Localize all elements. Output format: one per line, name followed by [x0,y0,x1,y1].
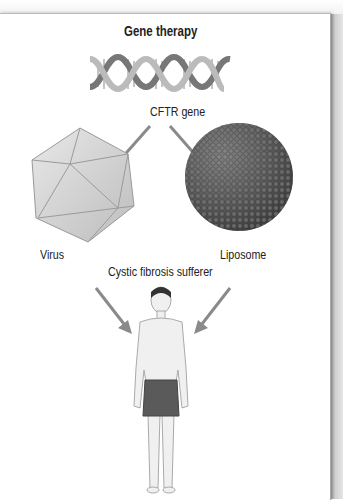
liposome-label: Liposome [220,247,266,262]
virus-label: Virus [40,247,64,262]
gene-label: CFTR gene [150,104,205,119]
liposome-sphere-icon [183,121,295,233]
patient-label: Cystic fibrosis sufferer [108,264,213,279]
page-background-top [0,0,343,14]
virus-capsid-icon [28,126,140,244]
diagram-title: Gene therapy [124,23,197,39]
page-edge-shadow [330,14,343,499]
dna-helix-icon [88,51,233,97]
arrow-from-liposome-icon [190,286,235,336]
diagram-panel: Gene therapy CFTR gene [0,13,331,500]
patient-figure-icon [128,278,194,498]
